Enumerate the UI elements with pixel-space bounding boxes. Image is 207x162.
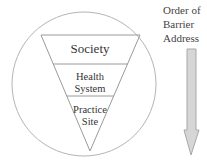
- level-health-system: Health System: [60, 71, 120, 95]
- level-practice-label-2: Site: [60, 116, 120, 128]
- level-health-label-1: Health: [60, 71, 120, 83]
- level-society: Society: [60, 42, 120, 57]
- side-label-line-3: Address: [163, 31, 201, 45]
- level-practice-label-1: Practice: [60, 104, 120, 116]
- side-label-line-1: Order of: [163, 3, 201, 17]
- down-arrow-icon: [184, 49, 199, 155]
- order-of-barrier-address-label: Order of Barrier Address: [163, 3, 201, 45]
- level-practice-site: Practice Site: [60, 104, 120, 128]
- level-society-label: Society: [71, 41, 110, 56]
- level-health-label-2: System: [60, 83, 120, 95]
- side-label-line-2: Barrier: [163, 17, 201, 31]
